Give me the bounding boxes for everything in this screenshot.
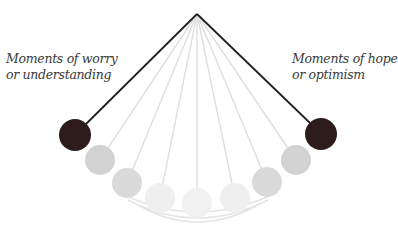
ball-left-extreme [59, 119, 91, 151]
ball-right-4 [220, 183, 250, 213]
ball-left-4 [145, 183, 175, 213]
ball-left-2 [85, 145, 115, 175]
dark-strings [86, 14, 310, 124]
ball-right-extreme [305, 118, 337, 150]
faint-balls [145, 183, 250, 218]
ball-right-2 [281, 145, 311, 175]
ball-left-3 [112, 168, 142, 198]
label-right-line-2: or optimism [292, 67, 398, 83]
label-worry-understanding: Moments of worry or understanding [6, 51, 118, 83]
ball-center [182, 188, 212, 218]
ball-right-3 [252, 167, 282, 197]
label-hope-optimism: Moments of hope or optimism [292, 51, 398, 83]
label-left-line-2: or understanding [6, 67, 118, 83]
label-left-line-1: Moments of worry [6, 51, 118, 67]
label-right-line-1: Moments of hope [292, 51, 398, 67]
